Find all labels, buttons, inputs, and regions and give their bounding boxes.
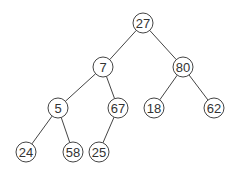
tree-node-67: 67 xyxy=(108,98,128,118)
node-label: 58 xyxy=(66,145,80,160)
node-label: 27 xyxy=(136,16,150,31)
tree-nodes: 277805671862245825 xyxy=(16,13,224,162)
node-label: 7 xyxy=(99,60,106,75)
tree-node-24: 24 xyxy=(16,142,36,162)
tree-node-80: 80 xyxy=(173,57,193,77)
edge-5-24 xyxy=(32,116,52,144)
tree-edges xyxy=(32,30,208,144)
node-label: 25 xyxy=(92,145,106,160)
tree-node-7: 7 xyxy=(93,57,113,77)
node-label: 62 xyxy=(207,101,221,116)
tree-node-18: 18 xyxy=(144,98,164,118)
edge-27-7 xyxy=(110,30,137,59)
edge-5-58 xyxy=(61,117,70,142)
node-label: 5 xyxy=(54,101,61,116)
node-label: 24 xyxy=(19,145,33,160)
tree-node-25: 25 xyxy=(89,142,109,162)
node-label: 67 xyxy=(111,101,125,116)
edge-7-67 xyxy=(106,76,114,98)
tree-node-62: 62 xyxy=(204,98,224,118)
edge-67-25 xyxy=(103,117,114,143)
edge-80-18 xyxy=(160,75,177,100)
tree-node-27: 27 xyxy=(133,13,153,33)
edge-7-5 xyxy=(65,74,95,102)
node-label: 80 xyxy=(176,60,190,75)
tree-node-5: 5 xyxy=(48,98,68,118)
edge-80-62 xyxy=(189,75,208,100)
binary-tree-diagram: 277805671862245825 xyxy=(0,0,240,174)
node-label: 18 xyxy=(147,101,161,116)
edge-27-80 xyxy=(150,30,177,59)
tree-node-58: 58 xyxy=(63,142,83,162)
